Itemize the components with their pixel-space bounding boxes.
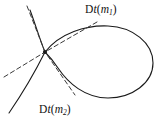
- curve-branch-upper-left: [30, 10, 45, 52]
- tangent-label-dt-m1: Dt(m1): [85, 4, 117, 16]
- tangent-label-dt-m1-close-paren: ): [113, 3, 117, 15]
- tangent-label-dt-m2-argument: m: [55, 103, 63, 115]
- tangent-label-dt-m2-close-paren: ): [67, 103, 71, 115]
- node-point-marker: [43, 50, 47, 54]
- curve-loop: [45, 26, 153, 98]
- tangent-label-dt-m1-argument: m: [101, 3, 109, 15]
- tangent-label-dt-m2: Dt(m2): [39, 104, 71, 116]
- tangent-line-dt-m2: [4, 52, 75, 95]
- nodal-cubic-diagram-svg: [0, 0, 160, 124]
- figure-container: Dt(m1) Dt(m2): [0, 0, 160, 124]
